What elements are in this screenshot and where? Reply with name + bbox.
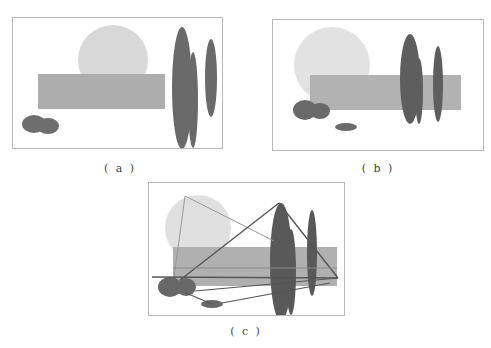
medium-rectangle	[38, 74, 165, 109]
figure-canvas	[0, 0, 491, 348]
caption-c: ( c )	[226, 325, 266, 338]
dark-ellipse-right	[205, 39, 217, 117]
dark-blob-right	[310, 103, 330, 119]
dark-ellipse-right	[307, 210, 317, 296]
caption-a: ( a )	[100, 162, 140, 175]
dark-blob-right	[37, 118, 59, 134]
small-flat-ellipse	[335, 123, 357, 131]
panel-b	[272, 19, 484, 151]
dark-ellipse-short	[188, 52, 198, 148]
caption-b: ( b )	[358, 162, 398, 175]
dark-ellipse-short	[415, 58, 423, 124]
panel-c	[148, 182, 345, 321]
dark-ellipse-right	[433, 46, 443, 122]
dark-ellipse-short	[286, 229, 296, 315]
panel-a	[12, 17, 223, 149]
